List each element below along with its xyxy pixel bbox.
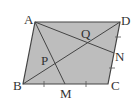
geometry-diagram: A D Q N P B M C [0,0,138,102]
label-C: C [111,78,120,93]
label-N: N [115,49,125,64]
label-A: A [24,12,34,27]
label-M: M [60,86,72,101]
label-D: D [121,13,130,28]
label-P: P [41,53,48,68]
label-Q: Q [81,26,91,41]
label-B: B [13,78,22,93]
